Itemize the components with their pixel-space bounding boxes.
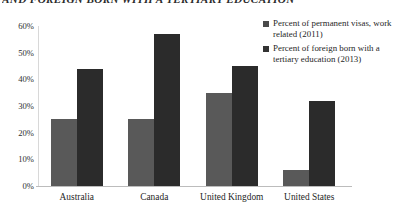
- chart-title: AND FOREIGN BORN WITH A TERTIARY EDUCATI…: [2, 0, 332, 3]
- x-axis-baseline: [36, 186, 352, 187]
- bar-series-2[interactable]: [309, 101, 335, 186]
- y-axis-tick-label: 0%: [0, 181, 34, 191]
- bar-chart: AND FOREIGN BORN WITH A TERTIARY EDUCATI…: [0, 0, 403, 219]
- bar-group: [38, 26, 116, 186]
- y-axis-tick-label: 30%: [0, 101, 34, 111]
- bar-group: [116, 26, 194, 186]
- x-axis-category-label: Canada: [140, 192, 168, 202]
- bar-series-1[interactable]: [128, 119, 154, 186]
- chart-legend: Percent of permanent visas, work related…: [263, 18, 403, 68]
- legend-label-series-1: Percent of permanent visas, work related…: [273, 18, 403, 39]
- bar-series-1[interactable]: [51, 119, 77, 186]
- bar-series-1[interactable]: [206, 93, 232, 186]
- legend-label-series-2: Percent of foreign born with a tertiary …: [273, 43, 403, 64]
- bar-series-1[interactable]: [283, 170, 309, 186]
- legend-swatch-series-1: [263, 21, 269, 27]
- bar-series-2[interactable]: [77, 69, 103, 186]
- x-axis-category-label: United Kingdom: [200, 192, 263, 202]
- legend-item[interactable]: Percent of permanent visas, work related…: [263, 18, 403, 39]
- x-axis-category-label: Australia: [60, 192, 94, 202]
- y-axis: 0%10%20%30%40%50%60%: [0, 26, 34, 186]
- y-axis-tick-label: 50%: [0, 48, 34, 58]
- y-axis-tick-label: 60%: [0, 21, 34, 31]
- bar-series-2[interactable]: [154, 34, 180, 186]
- legend-swatch-series-2: [263, 46, 269, 52]
- x-axis-category-label: United States: [284, 192, 334, 202]
- bar-group: [193, 26, 271, 186]
- bar-series-2[interactable]: [232, 66, 258, 186]
- y-axis-tick-label: 40%: [0, 74, 34, 84]
- y-axis-tick-label: 10%: [0, 154, 34, 164]
- legend-item[interactable]: Percent of foreign born with a tertiary …: [263, 43, 403, 64]
- y-axis-tick-label: 20%: [0, 128, 34, 138]
